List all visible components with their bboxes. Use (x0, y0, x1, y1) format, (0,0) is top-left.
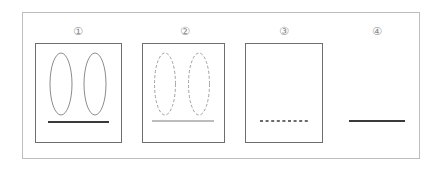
step-2-right-dashed-oval (189, 53, 210, 115)
diagram-shapes (0, 0, 444, 169)
step-2-shapes (152, 53, 214, 121)
step-2-left-dashed-oval (155, 53, 176, 115)
step-1-right-oval (84, 53, 106, 115)
step-1-left-oval (50, 53, 72, 115)
step-1-shapes (48, 53, 109, 122)
